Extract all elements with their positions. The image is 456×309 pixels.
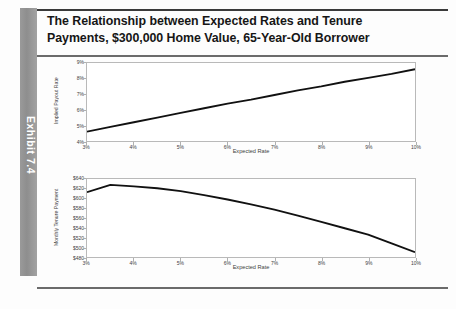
chart-top-ytick: 4% xyxy=(62,139,84,145)
chart-bottom-xtick-mark xyxy=(227,258,228,261)
chart-bottom-xtick-mark xyxy=(275,258,276,261)
chart-implied-payout-rate: Implied Payout Rate Expected Rate 4%5%6%… xyxy=(50,60,448,172)
chart-top-line-svg xyxy=(87,63,415,141)
page-title-line-1: The Relationship between Expected Rates … xyxy=(47,13,447,30)
chart-bottom-ytick: $580 xyxy=(62,205,84,211)
chart-top-xtick-mark xyxy=(180,142,181,145)
chart-top-xtick-mark xyxy=(86,142,87,145)
page-title: The Relationship between Expected Rates … xyxy=(47,13,447,47)
chart-top-plot-area xyxy=(86,62,416,142)
chart-top-xtick-mark xyxy=(133,142,134,145)
chart-top-xtick-mark xyxy=(369,142,370,145)
chart-bottom-xtick-mark xyxy=(180,258,181,261)
chart-bottom-ytick-mark xyxy=(83,228,86,229)
chart-top-xtick-mark xyxy=(322,142,323,145)
chart-top-ytick-mark xyxy=(83,94,86,95)
chart-bottom-ytick: $560 xyxy=(62,215,84,221)
chart-bottom-ytick-mark xyxy=(83,218,86,219)
chart-bottom-ytick: $500 xyxy=(62,245,84,251)
chart-bottom-ylabel: Monthly Tenure Payment xyxy=(50,176,62,258)
chart-bottom-ytick: $640 xyxy=(62,175,84,181)
chart-bottom-ytick: $540 xyxy=(62,225,84,231)
chart-top-ytick-mark xyxy=(83,62,86,63)
chart-top-ytick: 9% xyxy=(62,59,84,65)
chart-bottom-ytick: $480 xyxy=(62,255,84,261)
chart-top-xtick-mark xyxy=(275,142,276,145)
chart-bottom-ytick: $620 xyxy=(62,185,84,191)
chart-bottom-xtick-mark xyxy=(133,258,134,261)
rule-top xyxy=(37,9,448,11)
chart-bottom-ytick-mark xyxy=(83,208,86,209)
chart-top-ytick-mark xyxy=(83,110,86,111)
chart-top-ytick: 5% xyxy=(62,123,84,129)
chart-bottom-ytick-mark xyxy=(83,178,86,179)
chart-top-ytick: 8% xyxy=(62,75,84,81)
chart-bottom-xtick-mark xyxy=(322,258,323,261)
chart-bottom-ytick-mark xyxy=(83,198,86,199)
chart-top-ylabel: Implied Payout Rate xyxy=(50,60,62,142)
chart-top-ytick: 7% xyxy=(62,91,84,97)
rule-bottom xyxy=(37,287,448,289)
chart-bottom-plot-area xyxy=(86,178,416,258)
chart-bottom-xtick-mark xyxy=(416,258,417,261)
rule-mid xyxy=(37,55,448,57)
chart-bottom-xtick-mark xyxy=(369,258,370,261)
chart-bottom-ytick-mark xyxy=(83,238,86,239)
chart-monthly-tenure-payment: Monthly Tenure Payment Expected Rate $48… xyxy=(50,176,448,288)
chart-top-xtick-mark xyxy=(416,142,417,145)
chart-bottom-ytick: $600 xyxy=(62,195,84,201)
exhibit-tab-label: Exhibit 7.4 xyxy=(20,8,37,276)
chart-bottom-ytick-mark xyxy=(83,248,86,249)
chart-top-ytick-mark xyxy=(83,126,86,127)
chart-bottom-ytick: $520 xyxy=(62,235,84,241)
chart-top-xtick-mark xyxy=(227,142,228,145)
chart-bottom-ytick-mark xyxy=(83,188,86,189)
chart-top-ytick-mark xyxy=(83,78,86,79)
chart-bottom-line-svg xyxy=(87,179,415,257)
page-title-line-2: Payments, $300,000 Home Value, 65-Year-O… xyxy=(47,30,447,47)
chart-bottom-xtick-mark xyxy=(86,258,87,261)
exhibit-page: Exhibit 7.4 The Relationship between Exp… xyxy=(0,0,456,309)
chart-top-ytick: 6% xyxy=(62,107,84,113)
